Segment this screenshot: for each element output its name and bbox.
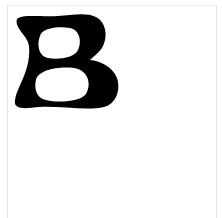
glyph-canvas: B — [0, 0, 222, 218]
letter-b-glyph — [0, 0, 222, 218]
